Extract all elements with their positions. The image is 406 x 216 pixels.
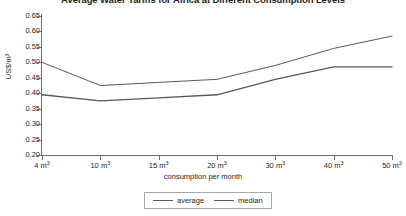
y-axis-tick-mark bbox=[37, 140, 41, 141]
plot-area bbox=[42, 16, 392, 155]
x-axis-tick-label: 40 m3 bbox=[312, 161, 356, 171]
y-axis-tick-mark bbox=[37, 124, 41, 125]
y-axis-tick-mark bbox=[37, 47, 41, 48]
x-axis-tick-label: 30 m3 bbox=[253, 161, 297, 171]
water-tariff-line-chart: Average Water Tariffs for Africa at Diff… bbox=[0, 0, 406, 216]
y-axis-title: US$/m³ bbox=[4, 37, 13, 97]
y-axis-tick-mark bbox=[37, 31, 41, 32]
x-axis-tick-mark bbox=[42, 156, 43, 160]
x-axis-tick-mark bbox=[159, 156, 160, 160]
y-axis-tick-mark bbox=[37, 78, 41, 79]
x-axis-tick-label: 10 m3 bbox=[78, 161, 122, 171]
x-axis-tick-label: 4 m3 bbox=[20, 161, 64, 171]
x-axis-tick-mark bbox=[392, 156, 393, 160]
x-axis-tick-label: 20 m3 bbox=[195, 161, 239, 171]
legend-label-median: median bbox=[238, 196, 263, 205]
y-axis-tick-mark bbox=[37, 109, 41, 110]
y-axis-tick-mark bbox=[37, 93, 41, 94]
x-axis-tick-mark bbox=[100, 156, 101, 160]
legend-line-icon-median bbox=[214, 200, 234, 201]
series-line-average bbox=[42, 36, 392, 85]
y-axis-tick-mark bbox=[37, 16, 41, 17]
chart-legend: average median bbox=[144, 192, 272, 209]
legend-line-icon-average bbox=[153, 200, 173, 201]
series-lines bbox=[42, 16, 392, 155]
x-axis-tick-mark bbox=[217, 156, 218, 160]
y-axis-tick-mark bbox=[37, 62, 41, 63]
x-axis-tick-label: 50 m3 bbox=[370, 161, 406, 171]
legend-entry-median: median bbox=[214, 196, 263, 205]
x-axis-tick-mark bbox=[275, 156, 276, 160]
legend-entry-average: average bbox=[153, 196, 204, 205]
legend-label-average: average bbox=[177, 196, 204, 205]
x-axis-tick-mark bbox=[334, 156, 335, 160]
y-axis-tick-mark bbox=[37, 155, 41, 156]
series-line-median bbox=[42, 67, 392, 101]
chart-title: Average Water Tariffs for Africa at Diff… bbox=[0, 0, 406, 5]
x-axis-title: consumption per month bbox=[0, 172, 406, 181]
x-axis-tick-label: 15 m3 bbox=[137, 161, 181, 171]
